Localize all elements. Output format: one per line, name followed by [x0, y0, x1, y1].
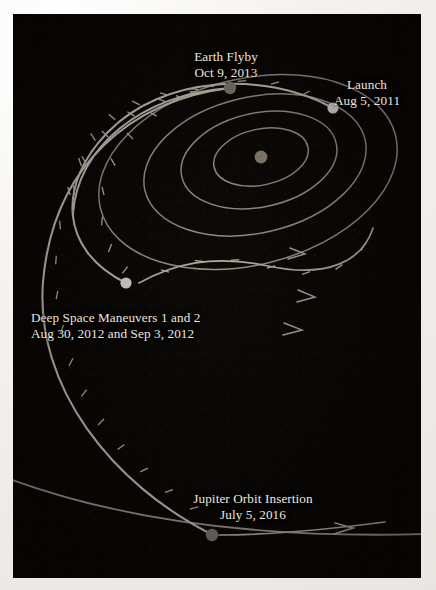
trajectory-diagram [13, 14, 421, 578]
trajectory-earth-return [139, 228, 373, 283]
orbit-arrow-outer [283, 323, 302, 335]
marker-launch [327, 102, 338, 113]
sun-marker [255, 151, 268, 164]
diagram-plate: Earth Flyby Oct 9, 2013 Launch Aug 5, 20… [13, 14, 421, 578]
trajectory-to-earth-flyby [73, 88, 230, 214]
marker-deep-space-maneuvers [120, 277, 131, 288]
trajectory-ticks-return [161, 243, 365, 274]
marker-jupiter-orbit-insertion [206, 529, 218, 541]
orbit-ellipse-mars [78, 45, 418, 299]
marker-earth-flyby [224, 82, 236, 94]
trajectory-ticks-jupiter [56, 92, 198, 509]
trajectory-outbound [72, 84, 333, 283]
orbit-direction-arrows [283, 248, 315, 335]
orbit-arrow-mid [297, 290, 315, 302]
trajectory-ticks-flyby-arc [74, 89, 198, 195]
jupiter-orbit-arc [13, 478, 421, 535]
trajectory-to-jupiter [42, 88, 230, 535]
orbit-ellipses [78, 45, 418, 299]
figure-root: Earth Flyby Oct 9, 2013 Launch Aug 5, 20… [0, 0, 436, 590]
